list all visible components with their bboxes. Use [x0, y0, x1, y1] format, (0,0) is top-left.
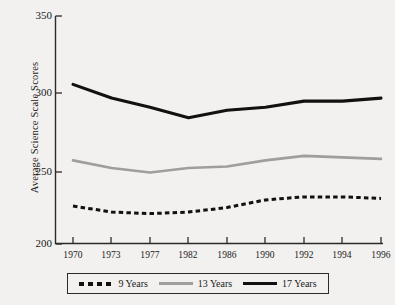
- black-line-swatch-icon: [243, 282, 277, 285]
- gray-line-swatch-icon: [159, 282, 193, 285]
- legend-label-17-years: 17 Years: [282, 278, 316, 289]
- x-tick-marks: [73, 237, 381, 244]
- x-tick-1996: 1996: [359, 250, 395, 260]
- legend-item-17-years: 17 Years: [243, 278, 316, 289]
- chart-legend: 9 Years 13 Years 17 Years: [67, 273, 329, 294]
- series-line-17-years: [73, 84, 381, 117]
- x-tick-1990: 1990: [243, 250, 287, 260]
- legend-item-9-years: 9 Years: [79, 278, 147, 289]
- legend-item-13-years: 13 Years: [159, 278, 232, 289]
- x-tick-1994: 1994: [320, 250, 364, 260]
- x-tick-1982: 1982: [166, 250, 210, 260]
- series-line-13-years: [73, 156, 381, 173]
- science-scores-line-chart: Average Science Scale Scores 350 300 250…: [0, 0, 395, 305]
- dashed-line-swatch-icon: [79, 282, 113, 286]
- x-tick-1973: 1973: [89, 250, 133, 260]
- legend-label-9-years: 9 Years: [118, 278, 147, 289]
- series-line-9-years: [73, 197, 381, 214]
- legend-label-13-years: 13 Years: [198, 278, 232, 289]
